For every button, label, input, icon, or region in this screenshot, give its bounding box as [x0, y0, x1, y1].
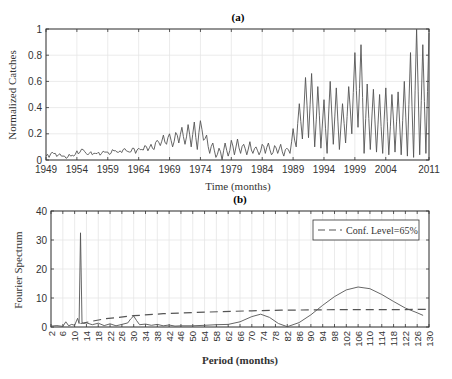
y-tick-label: 0.8 — [28, 50, 42, 61]
x-tick-label: 74 — [258, 331, 269, 342]
x-tick-label: 1999 — [344, 164, 367, 175]
x-tick-label: 1989 — [282, 164, 305, 175]
panel-b-ylabel: Fourier Spectrum — [12, 231, 24, 309]
panel-a-series-line — [46, 29, 429, 160]
x-tick-label: 2004 — [375, 164, 398, 175]
x-tick-label: 1979 — [220, 164, 243, 175]
x-tick-label: 58 — [211, 331, 222, 342]
x-tick-label: 94 — [317, 331, 328, 342]
x-tick-label: 122 — [400, 331, 411, 347]
x-tick-label: 126 — [412, 331, 423, 347]
panel-a-xlabel: Time (months) — [205, 180, 271, 193]
x-tick-label: 34 — [140, 331, 151, 342]
x-tick-label: 70 — [246, 331, 257, 342]
x-tick-label: 1984 — [251, 164, 274, 175]
x-tick-label: 2011 — [418, 164, 440, 175]
y-tick-label: 0 — [36, 155, 42, 166]
y-tick-label: 30 — [36, 235, 48, 246]
y-tick-label: 0.6 — [28, 76, 42, 87]
x-tick-label: 50 — [187, 331, 198, 342]
x-tick-label: 1994 — [313, 164, 336, 175]
panel-a-chart: (a) 194919541959196419691974197919841989… — [6, 11, 440, 193]
panel-b-chart: (b) 261014182226303438424650545862667074… — [12, 193, 435, 367]
x-tick-label: 78 — [270, 331, 281, 342]
x-tick-label: 90 — [305, 331, 316, 342]
y-tick-label: 0.4 — [28, 102, 42, 113]
panel-b-xlabel: Period (months) — [202, 354, 278, 367]
x-tick-label: 18 — [93, 331, 104, 342]
x-tick-label: 1974 — [189, 164, 212, 175]
panel-b-title: (b) — [233, 193, 247, 206]
x-tick-label: 6 — [57, 331, 68, 336]
panel-b-legend: Conf. Level=65% — [313, 220, 419, 240]
x-tick-label: 38 — [152, 331, 163, 342]
x-tick-label: 22 — [105, 331, 116, 342]
x-tick-label: 1969 — [158, 164, 181, 175]
panel-a-title: (a) — [232, 11, 245, 24]
x-tick-label: 1954 — [66, 164, 89, 175]
x-tick-label: 2 — [46, 331, 57, 336]
x-tick-label: 62 — [223, 331, 234, 342]
y-tick-label: 20 — [36, 264, 48, 275]
x-tick-label: 1964 — [128, 164, 151, 175]
y-tick-label: 0.2 — [28, 128, 42, 139]
x-tick-label: 1959 — [97, 164, 120, 175]
y-tick-label: 40 — [36, 206, 48, 217]
y-tick-label: 10 — [36, 293, 48, 304]
x-tick-label: 26 — [116, 331, 127, 342]
x-tick-label: 66 — [235, 331, 246, 342]
y-tick-label: 0 — [41, 322, 47, 333]
x-tick-label: 98 — [329, 331, 340, 342]
figure: (a) 194919541959196419691974197919841989… — [0, 0, 452, 379]
x-tick-label: 118 — [388, 331, 399, 346]
panel-b-spectrum-line — [51, 233, 423, 327]
x-tick-label: 30 — [128, 331, 139, 342]
x-tick-label: 114 — [376, 331, 387, 346]
y-tick-label: 1 — [36, 24, 42, 35]
x-tick-label: 86 — [294, 331, 305, 342]
panel-a-ylabel: Normalized Catches — [6, 50, 18, 140]
x-tick-label: 102 — [341, 331, 352, 347]
legend-label: Conf. Level=65% — [346, 225, 418, 236]
x-tick-label: 14 — [81, 331, 92, 342]
x-tick-label: 42 — [164, 331, 175, 342]
x-tick-label: 106 — [353, 331, 364, 347]
x-tick-label: 1949 — [35, 164, 58, 175]
x-tick-label: 54 — [199, 331, 210, 342]
x-tick-label: 46 — [175, 331, 186, 342]
x-tick-label: 130 — [424, 331, 435, 347]
x-tick-label: 110 — [364, 331, 375, 346]
x-tick-label: 10 — [69, 331, 80, 342]
x-tick-label: 82 — [282, 331, 293, 342]
